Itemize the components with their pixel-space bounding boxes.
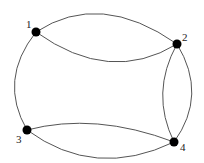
node-label-4: 4 (180, 141, 186, 153)
edge-2-4-right (174, 44, 192, 142)
node-label-3: 3 (16, 133, 22, 145)
node-1 (32, 28, 41, 37)
graph-diagram: 1 2 3 4 (0, 0, 204, 163)
node-label-2: 2 (182, 31, 188, 43)
nodes (23, 28, 182, 147)
edge-2-4-left (163, 44, 177, 142)
node-4 (170, 138, 179, 147)
edge-3-4-upper (27, 123, 174, 142)
edge-1-2-lower (36, 32, 177, 62)
edge-1-3-left (14, 32, 36, 130)
node-3 (23, 126, 32, 135)
node-2 (173, 40, 182, 49)
node-label-1: 1 (26, 18, 32, 30)
node-labels: 1 2 3 4 (16, 18, 188, 153)
edge-1-2-upper (36, 14, 177, 44)
edges (14, 14, 191, 159)
